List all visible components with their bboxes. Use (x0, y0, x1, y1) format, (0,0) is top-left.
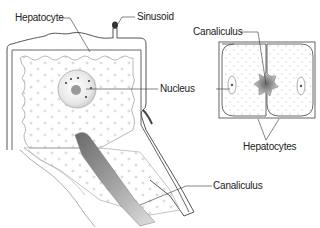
label-hepatocytes-inset: Hepatocytes (243, 142, 296, 152)
liver-cell-diagram (0, 0, 320, 227)
inset-diagram (219, 42, 315, 118)
label-nucleus: Nucleus (160, 84, 195, 94)
label-canaliculus-inset: Canaliculus (193, 27, 243, 37)
label-canaliculus-main: Canaliculus (213, 181, 263, 191)
label-sinusoid: Sinusoid (137, 12, 174, 22)
main-hepatocyte (7, 22, 194, 228)
label-hepatocyte: Hepatocyte (15, 13, 64, 23)
